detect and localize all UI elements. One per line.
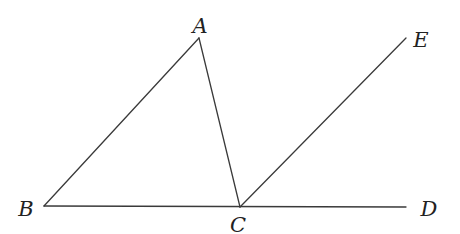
- segment-bd: [44, 206, 406, 207]
- segment-ba: [44, 38, 199, 206]
- geometry-diagram: A B C D E: [0, 0, 460, 234]
- label-point-d: D: [420, 197, 438, 221]
- label-point-c: C: [230, 213, 246, 234]
- segment-ac: [199, 38, 240, 207]
- label-point-e: E: [412, 28, 428, 52]
- label-point-b: B: [17, 197, 33, 221]
- label-point-a: A: [190, 14, 207, 38]
- segment-ce: [240, 38, 406, 207]
